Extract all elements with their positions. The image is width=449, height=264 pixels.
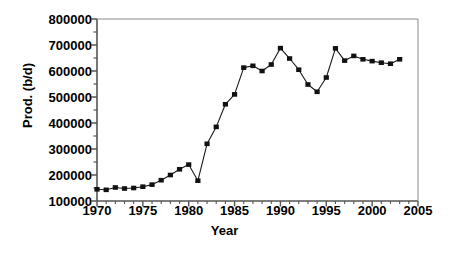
- x-tick-label: 2005: [388, 204, 448, 217]
- production-line-chart: Prod. (b/d) 1000002000003000004000005000…: [0, 0, 449, 264]
- x-axis-title: Year: [0, 223, 449, 238]
